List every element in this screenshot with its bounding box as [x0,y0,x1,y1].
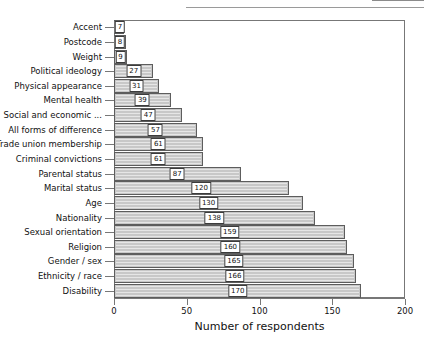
bar-row: 8 [114,35,405,49]
y-axis-tick [105,232,114,233]
bar-row: 27 [114,64,405,78]
y-axis-tick [105,57,114,58]
bar-value-label: 130 [199,197,218,209]
y-axis-label: Parental status [38,167,102,181]
bar-row: 138 [114,211,405,225]
y-axis-tick [105,188,114,189]
y-axis-tick [105,276,114,277]
y-axis-tick [105,130,114,131]
y-axis-label: Ethnicity / race [38,269,102,283]
y-axis-label: Physical appearance [14,79,102,93]
bar-row: 57 [114,123,405,137]
bar-row: 61 [114,152,405,166]
bar-value-label: 9 [115,51,125,63]
y-axis-label: All forms of difference [8,123,102,137]
x-axis-tick-label: 50 [181,306,192,316]
y-axis-tick [105,42,114,43]
x-axis-tick-label: 100 [251,306,267,316]
y-axis-tick [105,261,114,262]
y-axis-tick [105,115,114,116]
bar-value-label: 87 [170,168,185,180]
bar-row: 159 [114,225,405,239]
y-axis-tick [105,203,114,204]
bar-value-label: 31 [129,80,144,92]
bar-row: 166 [114,269,405,283]
bar-value-label: 138 [205,212,224,224]
y-axis-label: Religion [68,240,102,254]
y-axis-tick [105,247,114,248]
y-axis-tick [105,27,114,28]
bar-value-label: 39 [135,94,150,106]
bar-row: 165 [114,254,405,268]
bar-value-label: 160 [221,241,240,253]
bar-row: 120 [114,181,405,195]
y-axis-label: Mental health [44,93,102,107]
bar-chart: AccentPostcodeWeightPolitical ideologyPh… [0,0,424,343]
y-axis-label: Nationality [56,211,102,225]
y-axis-label: Postcode [64,35,102,49]
bar-row: 9 [114,50,405,64]
y-axis-tick [105,174,114,175]
bar-row: 31 [114,79,405,93]
bar-row: 47 [114,108,405,122]
y-axis-tick [105,86,114,87]
x-axis-tick [260,299,261,305]
x-axis-tick [114,299,115,305]
y-axis-label: Sexual orientation [24,225,102,239]
x-axis-tick [187,299,188,305]
bar-value-label: 7 [115,21,125,33]
bar-row: 61 [114,137,405,151]
bars-layer: 7892731394757616187120130138159160165166… [114,20,405,298]
bar-value-label: 61 [151,138,166,150]
y-axis-tick [105,71,114,72]
x-axis-tick-label: 200 [397,306,413,316]
x-axis-tick [332,299,333,305]
y-axis-tick [105,144,114,145]
y-axis-label: Accent [73,20,102,34]
x-axis-tick-label: 0 [111,306,116,316]
bar-row: 87 [114,167,405,181]
y-axis-tick [105,100,114,101]
y-axis-label: Criminal convictions [16,152,102,166]
y-axis-label: Social and economic ... [4,108,102,122]
bar-row: 130 [114,196,405,210]
bar-row: 160 [114,240,405,254]
bar-value-label: 165 [224,255,243,267]
bar-row: 7 [114,20,405,34]
y-axis-label: Disability [63,284,102,298]
bar-value-label: 61 [151,153,166,165]
bar-value-label: 159 [220,226,239,238]
x-axis-title: Number of respondents [114,320,405,333]
y-axis-label: Gender / sex [48,254,102,268]
x-axis-tick [405,299,406,305]
y-axis-label: Marital status [44,181,102,195]
y-axis-category-labels: AccentPostcodeWeightPolitical ideologyPh… [0,20,114,298]
y-axis-label: Weight [72,50,102,64]
bar-value-label: 166 [225,270,244,282]
bar-value-label: 120 [192,182,211,194]
y-axis-label: Political ideology [30,64,102,78]
y-axis-tick [105,159,114,160]
y-axis-tick [105,218,114,219]
bar-row: 39 [114,93,405,107]
y-axis-label: Age [86,196,102,210]
bar-row: 170 [114,284,405,298]
x-axis-tick-label: 150 [324,306,340,316]
y-axis-label: Trade union membership [0,137,102,151]
bar-value-label: 8 [115,36,125,48]
y-axis-tick [105,291,114,292]
bar-value-label: 170 [228,285,247,297]
bar-value-label: 47 [141,109,156,121]
bar-value-label: 57 [148,124,163,136]
bar-value-label: 27 [126,65,141,77]
